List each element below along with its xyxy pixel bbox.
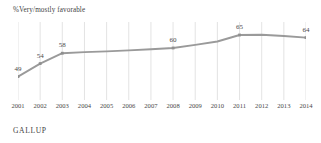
x-axis-tick-label: 2011	[233, 102, 246, 109]
chart-title: %Very/mostly favorable	[13, 6, 85, 14]
plot-canvas	[18, 22, 306, 100]
x-axis-tick-labels: 2001200220032004200520062007200820092010…	[18, 102, 306, 114]
x-axis-tick-label: 2012	[255, 102, 268, 109]
x-axis-tick-label: 2001	[11, 102, 24, 109]
x-axis-tick-label: 2004	[78, 102, 91, 109]
data-point-label: 64	[303, 26, 310, 34]
data-point-label: 54	[37, 52, 44, 60]
data-point-label: 49	[15, 65, 22, 73]
x-axis-tick-label: 2006	[122, 102, 135, 109]
plot-area: 495458606564	[18, 22, 306, 100]
x-axis-tick-label: 2007	[144, 102, 157, 109]
x-axis-tick-label: 2010	[211, 102, 224, 109]
x-axis-tick-label: 2008	[166, 102, 179, 109]
x-axis-tick-label: 2005	[100, 102, 113, 109]
x-axis-tick-label: 2003	[56, 102, 69, 109]
data-point-label: 58	[59, 41, 66, 49]
x-axis-tick-label: 2002	[34, 102, 47, 109]
gallup-brand-footer: GALLUP	[13, 126, 47, 135]
data-point-label: 60	[170, 36, 177, 44]
gallup-line-chart: %Very/mostly favorable 495458606564 2001…	[0, 0, 321, 143]
x-axis-tick-label: 2014	[299, 102, 312, 109]
x-axis-tick-label: 2009	[189, 102, 202, 109]
data-point-label: 65	[236, 23, 243, 31]
x-axis-tick-label: 2013	[277, 102, 290, 109]
